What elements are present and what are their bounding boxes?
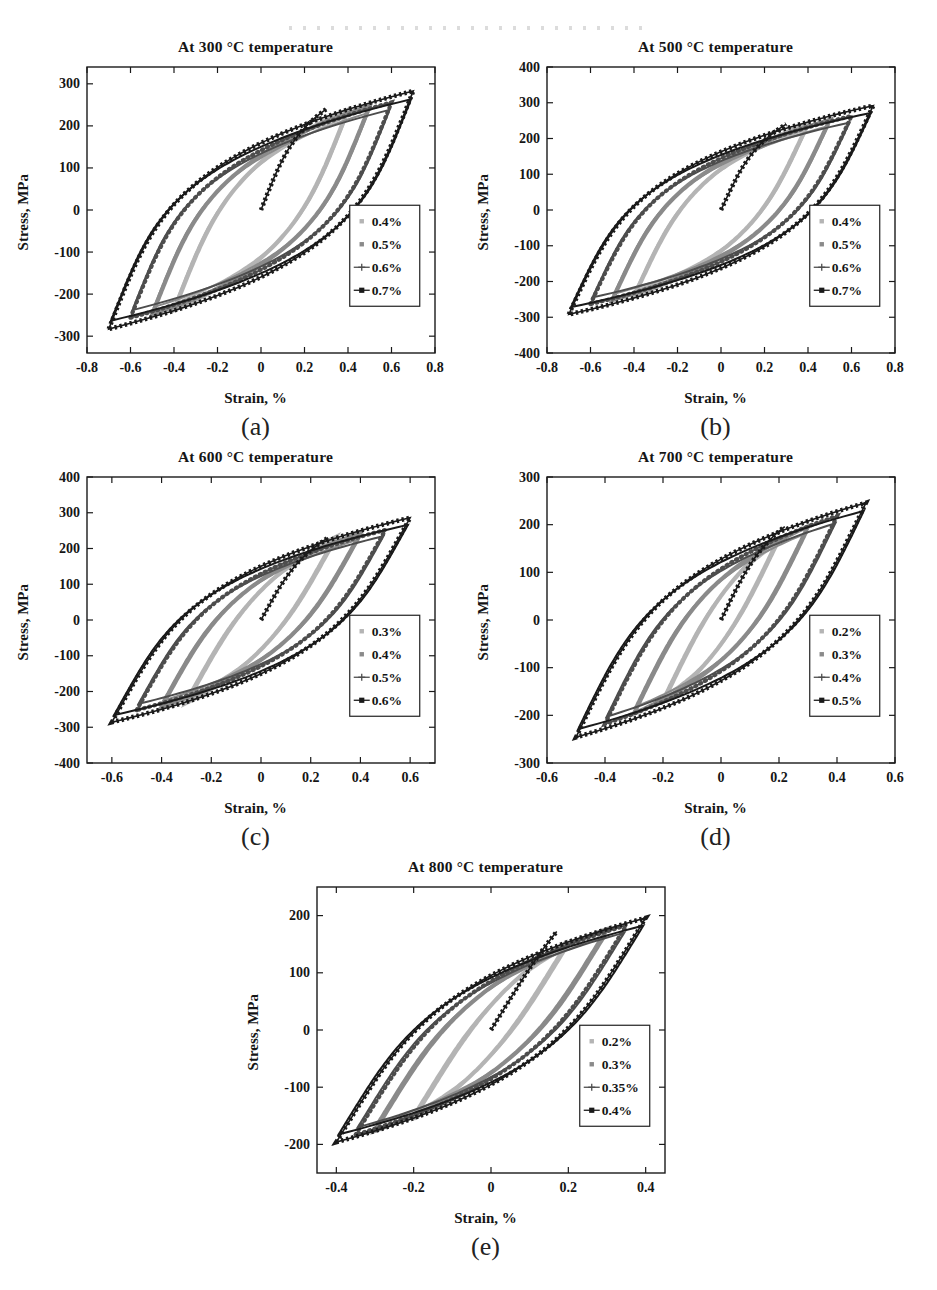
x-axis-label: Strain, % (243, 1210, 695, 1232)
svg-text:0.2: 0.2 (559, 1180, 577, 1195)
svg-text:-0.2: -0.2 (200, 770, 222, 785)
chart-300c: At 300 °C temperature Stress, MPa -0.8-0… (13, 38, 465, 448)
svg-text:0.8: 0.8 (426, 360, 444, 375)
y-axis-label: Stress, MPa (473, 470, 495, 800)
svg-text:-0.6: -0.6 (579, 360, 601, 375)
svg-text:0.6%: 0.6% (371, 260, 401, 275)
svg-text:-0.4: -0.4 (325, 1180, 347, 1195)
svg-text:-100: -100 (54, 648, 80, 663)
chart-title: At 800 °C temperature (243, 858, 695, 880)
subfigure-caption: (b) (473, 412, 925, 448)
svg-text:-400: -400 (54, 756, 80, 771)
svg-text:0.6: 0.6 (886, 770, 904, 785)
svg-text:0.5%: 0.5% (371, 237, 401, 252)
svg-text:0: 0 (73, 203, 80, 218)
svg-text:100: 100 (59, 577, 80, 592)
svg-text:0.6: 0.6 (842, 360, 860, 375)
subfigure-caption: (d) (473, 822, 925, 858)
figure-row-1: At 300 °C temperature Stress, MPa -0.8-0… (0, 38, 937, 448)
svg-text:100: 100 (289, 965, 310, 980)
svg-text:0.2: 0.2 (295, 360, 313, 375)
plot-canvas-800c: -0.4-0.200.20.4-200-10001002000.2%0.3%0.… (265, 880, 675, 1210)
y-axis-label: Stress, MPa (473, 60, 495, 390)
svg-text:100: 100 (519, 167, 540, 182)
svg-text:-200: -200 (514, 274, 540, 289)
chart-700c: At 700 °C temperature Stress, MPa -0.6-0… (473, 448, 925, 858)
svg-text:-200: -200 (514, 708, 540, 723)
svg-text:-0.2: -0.2 (206, 360, 228, 375)
svg-text:-0.2: -0.2 (666, 360, 688, 375)
svg-text:-300: -300 (514, 310, 540, 325)
y-axis-label: Stress, MPa (243, 880, 265, 1210)
subfigure-caption: (a) (13, 412, 465, 448)
svg-text:-0.4: -0.4 (593, 770, 615, 785)
svg-text:0.4: 0.4 (636, 1180, 654, 1195)
svg-text:300: 300 (519, 470, 540, 485)
svg-text:-0.8: -0.8 (535, 360, 557, 375)
svg-text:0.2%: 0.2% (831, 624, 861, 639)
svg-text:0.6: 0.6 (401, 770, 419, 785)
plot-canvas-500c: -0.8-0.6-0.4-0.200.20.40.60.8-400-300-20… (495, 60, 905, 390)
svg-text:-0.4: -0.4 (162, 360, 184, 375)
svg-text:0: 0 (257, 770, 264, 785)
chart-title: At 300 °C temperature (13, 38, 465, 60)
svg-text:-400: -400 (514, 346, 540, 361)
plot-canvas-300c: -0.8-0.6-0.4-0.200.20.40.60.8-300-200-10… (35, 60, 445, 390)
chart-title: At 500 °C temperature (473, 38, 925, 60)
svg-text:0.6: 0.6 (382, 360, 400, 375)
chart-800c: At 800 °C temperature Stress, MPa -0.4-0… (243, 858, 695, 1268)
svg-text:-0.4: -0.4 (150, 770, 172, 785)
svg-text:-0.2: -0.2 (402, 1180, 424, 1195)
subfigure-caption: (c) (13, 822, 465, 858)
svg-text:0.3%: 0.3% (371, 624, 401, 639)
svg-text:-0.6: -0.6 (119, 360, 141, 375)
svg-text:-0.8: -0.8 (75, 360, 97, 375)
svg-text:0.6%: 0.6% (831, 260, 861, 275)
svg-text:300: 300 (519, 95, 540, 110)
x-axis-label: Strain, % (473, 800, 925, 822)
svg-text:0.3%: 0.3% (831, 647, 861, 662)
svg-text:0.4%: 0.4% (371, 647, 401, 662)
chart-title: At 600 °C temperature (13, 448, 465, 470)
svg-text:-300: -300 (54, 720, 80, 735)
svg-text:0: 0 (73, 613, 80, 628)
svg-text:0.4: 0.4 (799, 360, 817, 375)
svg-text:-0.2: -0.2 (651, 770, 673, 785)
svg-text:0.4: 0.4 (351, 770, 369, 785)
svg-text:0.3%: 0.3% (601, 1057, 631, 1072)
svg-text:-200: -200 (54, 684, 80, 699)
chart-title: At 700 °C temperature (473, 448, 925, 470)
svg-text:100: 100 (59, 160, 80, 175)
svg-text:0: 0 (717, 360, 724, 375)
svg-text:-300: -300 (54, 329, 80, 344)
svg-text:0.4: 0.4 (339, 360, 357, 375)
svg-text:-100: -100 (54, 245, 80, 260)
figure-row-3: At 800 °C temperature Stress, MPa -0.4-0… (0, 858, 937, 1268)
svg-text:0: 0 (303, 1023, 310, 1038)
svg-text:0.35%: 0.35% (601, 1080, 638, 1095)
svg-text:-300: -300 (514, 756, 540, 771)
figure-row-2: At 600 °C temperature Stress, MPa -0.6-0… (0, 448, 937, 858)
svg-text:0: 0 (533, 203, 540, 218)
svg-text:-0.4: -0.4 (622, 360, 644, 375)
svg-text:400: 400 (59, 470, 80, 485)
y-axis-label: Stress, MPa (13, 60, 35, 390)
plot-canvas-600c: -0.6-0.4-0.200.20.40.6-400-300-200-10001… (35, 470, 445, 800)
svg-text:-0.6: -0.6 (100, 770, 122, 785)
y-axis-label: Stress, MPa (13, 470, 35, 800)
svg-text:0.4%: 0.4% (831, 214, 861, 229)
x-axis-label: Strain, % (13, 800, 465, 822)
svg-text:200: 200 (59, 118, 80, 133)
svg-text:0.2: 0.2 (770, 770, 788, 785)
svg-text:0.4%: 0.4% (601, 1103, 631, 1118)
svg-text:-100: -100 (514, 238, 540, 253)
svg-text:0.5%: 0.5% (831, 237, 861, 252)
svg-text:-100: -100 (514, 660, 540, 675)
chart-600c: At 600 °C temperature Stress, MPa -0.6-0… (13, 448, 465, 858)
cropped-header-text (289, 26, 649, 30)
svg-text:0.2%: 0.2% (601, 1034, 631, 1049)
svg-text:300: 300 (59, 76, 80, 91)
svg-text:0.7%: 0.7% (831, 283, 861, 298)
svg-text:-200: -200 (54, 287, 80, 302)
svg-text:200: 200 (519, 131, 540, 146)
